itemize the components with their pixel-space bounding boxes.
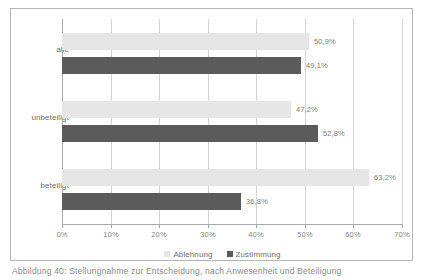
figure-caption: Abbildung 40: Stellungnahme zur Entschei… — [12, 266, 422, 277]
legend-entry-zustimmung[interactable]: Zustimmung — [227, 250, 281, 259]
tickmark-40 — [256, 224, 257, 228]
xtick-label-10: 10% — [91, 230, 131, 239]
chart-frame: alle unbeteiligt beteiligt 50,9% 49,1% 4… — [10, 8, 413, 261]
bar-value-alle-zustimmung: 49,1% — [306, 57, 328, 74]
legend-entry-ablehnung[interactable]: Ablehnung — [164, 250, 212, 259]
bar-unbeteiligt-zustimmung[interactable] — [62, 125, 318, 142]
xtick-label-70: 70% — [382, 230, 422, 239]
legend-label-ablehnung: Ablehnung — [173, 250, 212, 259]
gridline-70 — [402, 19, 403, 224]
bar-alle-ablehnung[interactable] — [62, 33, 309, 50]
bar-beteiligt-zustimmung[interactable] — [62, 193, 241, 210]
tickmark-70 — [402, 224, 403, 228]
tickmark-20 — [159, 224, 160, 228]
xtick-label-60: 60% — [333, 230, 373, 239]
xtick-label-0: 0% — [42, 230, 82, 239]
plot-area: 50,9% 49,1% 47,2% 52,8% 63,2% 36,8% — [62, 19, 402, 224]
legend-label-zustimmung: Zustimmung — [236, 250, 281, 259]
tickmark-0 — [62, 224, 63, 228]
bar-value-alle-ablehnung: 50,9% — [314, 33, 336, 50]
gridline-60 — [353, 19, 354, 224]
bar-value-unbeteiligt-zustimmung: 52,8% — [323, 125, 345, 142]
bar-unbeteiligt-ablehnung[interactable] — [62, 101, 291, 118]
tickmark-30 — [208, 224, 209, 228]
tickmark-60 — [353, 224, 354, 228]
xtick-label-30: 30% — [188, 230, 228, 239]
x-axis-line — [62, 224, 403, 225]
tickmark-10 — [111, 224, 112, 228]
chart-legend: Ablehnung Zustimmung — [22, 247, 423, 261]
bar-beteiligt-ablehnung[interactable] — [62, 169, 369, 186]
tickmark-50 — [305, 224, 306, 228]
bar-value-beteiligt-ablehnung: 63,2% — [374, 169, 396, 186]
xtick-label-40: 40% — [236, 230, 276, 239]
xtick-label-20: 20% — [139, 230, 179, 239]
xtick-label-50: 50% — [285, 230, 325, 239]
bar-value-unbeteiligt-ablehnung: 47,2% — [296, 101, 318, 118]
legend-swatch-icon-zustimmung — [227, 251, 233, 257]
bar-value-beteiligt-zustimmung: 36,8% — [246, 193, 268, 210]
bar-alle-zustimmung[interactable] — [62, 57, 301, 74]
chart-figure: alle unbeteiligt beteiligt 50,9% 49,1% 4… — [0, 0, 424, 280]
legend-swatch-icon-ablehnung — [164, 251, 170, 257]
